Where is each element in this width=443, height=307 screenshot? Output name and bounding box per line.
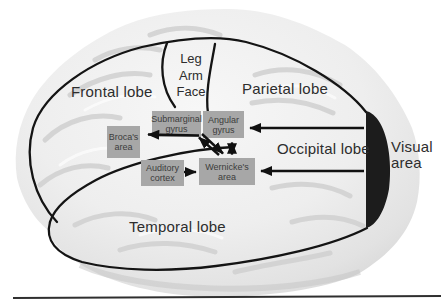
auditory-cortex-box: Auditory cortex	[141, 160, 184, 186]
area-box-layer: Submarginal gyrus Angular gyrus Broca's …	[0, 0, 443, 307]
wernickes-area-label-line2: area	[218, 172, 236, 182]
angular-gyrus-label-line2: gyrus	[212, 125, 234, 135]
auditory-cortex-label-line2: cortex	[150, 173, 175, 183]
brocas-area-label-line1: Broca's	[109, 132, 139, 142]
auditory-cortex-label-line1: Auditory	[146, 163, 179, 173]
brocas-area-box: Broca's area	[107, 126, 140, 158]
brain-language-areas-figure: Submarginal gyrus Angular gyrus Broca's …	[0, 0, 443, 307]
angular-gyrus-box: Angular gyrus	[203, 111, 244, 138]
submarginal-gyrus-box: Submarginal gyrus	[152, 111, 201, 137]
angular-gyrus-label-line1: Angular	[208, 115, 239, 125]
brocas-area-label-line2: area	[114, 142, 132, 152]
wernickes-area-label-line1: Wernicke's	[205, 162, 249, 172]
submarginal-gyrus-label-line1: Submarginal	[151, 114, 202, 124]
submarginal-gyrus-label-line2: gyrus	[165, 124, 187, 134]
wernickes-area-box: Wernicke's area	[199, 158, 255, 185]
